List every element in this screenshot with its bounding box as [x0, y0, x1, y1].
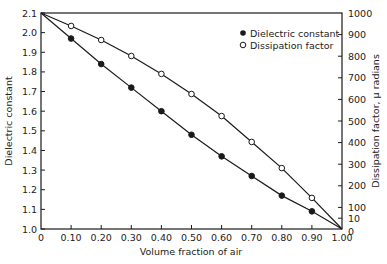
- x-tick-label: 0.10: [61, 232, 82, 243]
- y-right-tick-label: 300: [348, 159, 366, 170]
- x-tick-label: 0.20: [91, 232, 112, 243]
- y-tick-label: 1.9: [22, 47, 37, 58]
- filled-circle-marker-icon: [129, 85, 135, 91]
- x-tick-label: 0.30: [121, 232, 142, 243]
- x-tick-label: 0.70: [241, 232, 262, 243]
- open-circle-marker-icon: [68, 23, 74, 29]
- y-right-tick-label: 900: [348, 29, 366, 40]
- open-circle-marker-icon: [249, 139, 255, 145]
- y-tick-label: 2.1: [22, 8, 37, 19]
- x-tick-label: 0.80: [271, 232, 292, 243]
- open-circle-marker-icon: [309, 195, 315, 201]
- y-right-tick-label: 800: [348, 51, 366, 62]
- x-tick-label: 0.40: [151, 232, 172, 243]
- y-right-tick-label: 500: [348, 116, 366, 127]
- legend: Dielectric constant Dissipation factor: [240, 28, 339, 51]
- y-tick-label: 2.0: [22, 27, 37, 38]
- y-tick-label: 1.5: [22, 125, 37, 136]
- x-axis: 00.100.200.300.400.500.600.700.800.901.0…: [38, 225, 353, 243]
- open-circle-marker-icon: [219, 113, 225, 119]
- legend-label-dielectric: Dielectric constant: [250, 28, 340, 39]
- y-tick-label: 1.0: [22, 224, 37, 235]
- y-right-tick-label: 100: [348, 202, 366, 213]
- filled-circle-marker-icon: [249, 173, 255, 179]
- open-circle-marker-icon: [189, 91, 195, 97]
- right-axis: 0101002003004005006007008009001000: [338, 8, 372, 237]
- legend-label-dissipation: Dissipation factor: [250, 40, 333, 51]
- filled-circle-marker-icon: [189, 132, 195, 138]
- filled-circle-marker-icon: [68, 36, 74, 42]
- open-circle-marker-icon: [98, 37, 104, 43]
- y-axis-title: Dielectric constant: [3, 76, 14, 166]
- legend-filled-circle-icon: [240, 30, 246, 36]
- x-tick-label: 0.90: [301, 232, 322, 243]
- filled-circle-marker-icon: [309, 209, 315, 215]
- open-circle-marker-icon: [279, 165, 285, 171]
- y-right-tick-label: 600: [348, 94, 366, 105]
- y-right-tick-label: 1000: [348, 8, 372, 19]
- legend-open-circle-icon: [240, 42, 246, 48]
- x-tick-label: 0.60: [211, 232, 232, 243]
- filled-circle-marker-icon: [219, 154, 225, 160]
- y-right-tick-label: 400: [348, 137, 366, 148]
- y-right-tick-label: 200: [348, 180, 366, 191]
- x-axis-title: Volume fraction of air: [140, 246, 243, 257]
- y-right-axis-title: Dissipation factor, μ radians: [370, 54, 381, 188]
- y-tick-label: 1.6: [22, 106, 37, 117]
- x-tick-label: 0.50: [181, 232, 202, 243]
- y-tick-label: 1.3: [22, 165, 37, 176]
- open-circle-marker-icon: [129, 53, 135, 59]
- x-tick-label: 0: [38, 232, 44, 243]
- y-right-tick-label: 10: [348, 213, 360, 224]
- y-right-tick-label: 700: [348, 72, 366, 83]
- y-tick-label: 1.8: [22, 66, 37, 77]
- y-tick-label: 1.4: [22, 145, 37, 156]
- filled-circle-marker-icon: [279, 193, 285, 199]
- filled-circle-marker-icon: [159, 108, 165, 114]
- y-tick-label: 1.1: [22, 204, 37, 215]
- filled-circle-marker-icon: [98, 61, 104, 67]
- open-circle-marker-icon: [159, 71, 165, 77]
- y-tick-label: 1.2: [22, 184, 37, 195]
- chart: 1.01.11.21.31.41.51.61.71.81.92.02.1 010…: [0, 0, 387, 264]
- x-tick-label: 1.00: [331, 232, 352, 243]
- y-tick-label: 1.7: [22, 86, 37, 97]
